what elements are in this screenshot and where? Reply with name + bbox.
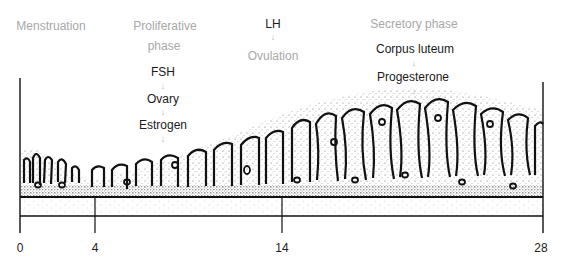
endometrium-illustration [0, 0, 563, 265]
tick-label-4: 4 [92, 241, 99, 255]
basal-layer [20, 185, 543, 197]
tick-label-14: 14 [275, 241, 288, 255]
tick-label-28: 28 [534, 241, 547, 255]
tick-label-0: 0 [17, 241, 24, 255]
